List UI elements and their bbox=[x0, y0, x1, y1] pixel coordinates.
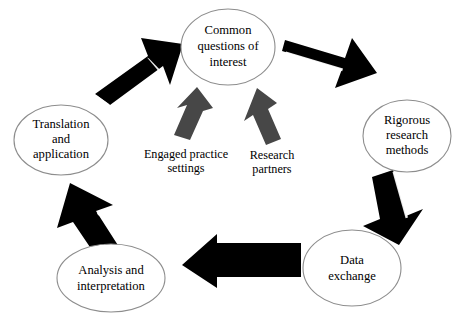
node-translation-application-line-2: and bbox=[52, 132, 71, 146]
node-rigorous-research-methods-line-3: methods bbox=[386, 143, 429, 157]
arrow-engaged-practice-input bbox=[174, 87, 213, 140]
node-common-questions-line-3: interest bbox=[209, 55, 247, 69]
node-translation-application: Translation and application bbox=[14, 105, 108, 175]
label-research-partners-line-2: partners bbox=[252, 162, 292, 176]
arrow-questions-to-methods bbox=[282, 38, 377, 88]
arrow-translation-to-questions bbox=[95, 38, 183, 107]
node-analysis-interpretation-line-1: Analysis and bbox=[78, 263, 144, 277]
label-engaged-practice-settings-line-2: settings bbox=[167, 161, 204, 175]
node-data-exchange: Data exchange bbox=[303, 230, 401, 306]
node-translation-application-line-1: Translation bbox=[33, 117, 91, 131]
node-translation-application-line-3: application bbox=[33, 147, 90, 161]
label-research-partners-line-1: Research bbox=[250, 148, 295, 162]
cycle-diagram-canvas: Common questions of interest Rigorous re… bbox=[0, 0, 463, 324]
node-common-questions-line-2: questions of bbox=[197, 39, 259, 53]
node-data-exchange-line-2: exchange bbox=[328, 269, 376, 283]
label-engaged-practice-settings: Engaged practice settings bbox=[144, 147, 228, 175]
node-data-exchange-line-1: Data bbox=[340, 253, 364, 267]
node-analysis-interpretation-line-2: interpretation bbox=[77, 279, 146, 293]
node-common-questions-line-1: Common bbox=[205, 23, 253, 37]
label-engaged-practice-settings-line-1: Engaged practice bbox=[144, 147, 228, 161]
node-rigorous-research-methods-line-2: research bbox=[386, 128, 429, 142]
arrow-research-partners-input bbox=[244, 88, 281, 145]
node-analysis-interpretation: Analysis and interpretation bbox=[57, 244, 165, 312]
arrow-exchange-to-analysis bbox=[182, 234, 301, 288]
label-research-partners: Research partners bbox=[250, 148, 295, 176]
node-rigorous-research-methods-line-1: Rigorous bbox=[384, 113, 430, 127]
cycle-diagram: Common questions of interest Rigorous re… bbox=[0, 0, 463, 324]
node-rigorous-research-methods: Rigorous research methods bbox=[363, 100, 451, 172]
node-common-questions: Common questions of interest bbox=[181, 9, 275, 85]
